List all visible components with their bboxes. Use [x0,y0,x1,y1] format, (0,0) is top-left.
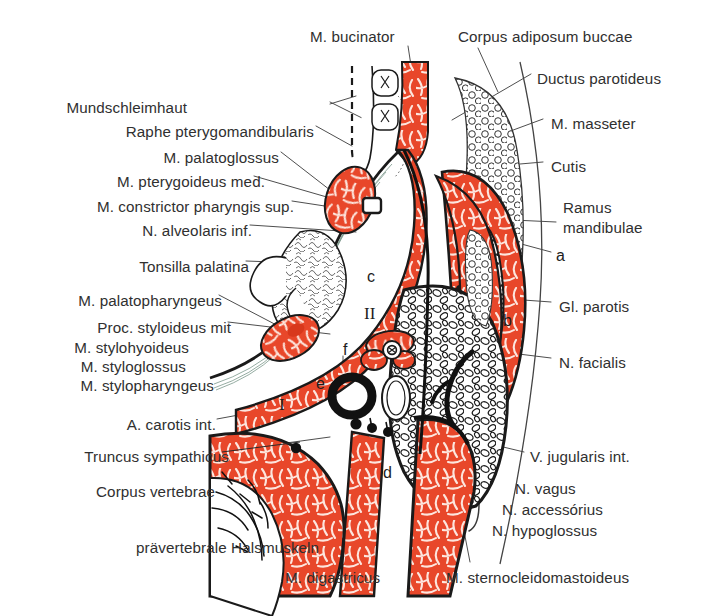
marker-roman-II: II [364,304,375,324]
label-ramus-mandibulae: Ramus [563,199,612,216]
marker-c: c [367,268,375,286]
marker-b: b [503,312,512,330]
label-a-carotis-int: A. carotis int. [127,416,216,433]
label-m-stylohyoideus: M. stylohyoideus [74,339,189,356]
marker-d: d [383,464,392,482]
label-corpus-vertebrae: Corpus vertebrae [96,483,215,500]
label-n-vagus: N. vagus [515,480,576,497]
label-m-stylopharyngeus: M. stylopharyngeus [81,377,215,394]
figure-canvas: Mundschleimhaut Raphe pterygomandibulari… [0,0,719,616]
label-n-accessorius: N. accessórius [502,501,603,518]
label-tonsilla-palatina: Tonsilla palatina [139,258,249,275]
label-n-hypoglossus: N. hypoglossus [492,522,597,539]
label-proc-styloideus-mit: Proc. styloideus mit [97,319,231,336]
label-corpus-adiposum-buccae: Corpus adiposum buccae [458,28,632,45]
label-m-masseter: M. masseter [551,115,636,132]
label-m-sternocleidomastoideus: M. sternocleidomastoideus [446,569,629,586]
label-v-jugularis-int: V. jugularis int. [530,448,630,465]
marker-f: f [343,341,347,359]
label-gl-parotis: Gl. parotis [559,298,629,315]
label-ductus-parotideus: Ductus parotideus [537,70,661,87]
marker-a: a [556,247,565,265]
label-m-constrictor-pharyngis-sup: M. constrictor pharyngis sup. [97,198,294,215]
label-m-styloglossus: M. styloglossus [81,358,186,375]
label-mundschleimhaut: Mundschleimhaut [66,99,187,116]
label-cutis: Cutis [551,158,586,175]
label-n-facialis: N. facialis [559,354,626,371]
marker-roman-I: I [279,395,285,415]
label-n-alveolaris-inf: N. alveolaris inf. [142,222,252,239]
label-truncus-sympathicus: Truncus sympathicus [84,448,229,465]
label-m-palatoglossus: M. palatoglossus [163,149,279,166]
label-m-bucinator: M. bucinator [310,28,395,45]
label-m-digastricus: M. digastricus [285,569,380,586]
label-ramus-mandibulae-line2: mandibulae [563,219,643,236]
label-m-palatopharyngeus: M. palatopharyngeus [78,292,222,309]
label-m-pterygoideus-med: M. pterygoideus med. [117,173,265,190]
label-raphe-pterygomandibularis: Raphe pterygomandibularis [126,123,314,140]
label-praevertebrale-halsmuskeln: prävertebrale Halsmuskeln [136,539,319,556]
marker-e: e [316,375,325,393]
